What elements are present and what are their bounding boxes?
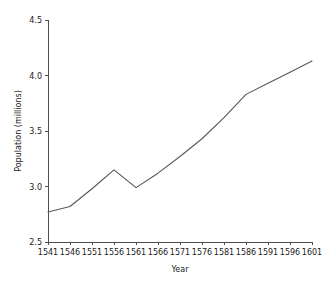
y-axis-title: Population (millions) [14,90,23,172]
y-tick-label: 3.0 [29,183,42,192]
x-tick-label: 1566 [148,248,168,257]
y-tick-label: 4.0 [29,72,42,81]
line-chart: 2.53.03.54.04.5 154115461551155615611566… [0,0,331,281]
x-tick-label: 1591 [258,248,278,257]
x-tick-label: 1571 [170,248,190,257]
y-tick-label: 2.5 [29,238,42,247]
y-axis-tick-labels: 2.53.03.54.04.5 [29,16,42,247]
x-tick-label: 1576 [192,248,212,257]
x-tick-label: 1546 [60,248,80,257]
x-tick-label: 1581 [214,248,234,257]
x-axis-tick-labels: 1541154615511556156115661571157615811586… [38,248,322,257]
y-tick-label: 4.5 [29,16,42,25]
population-line-series [48,61,312,212]
x-axis-title: Year [171,265,190,274]
x-tick-label: 1561 [126,248,146,257]
x-tick-label: 1596 [280,248,300,257]
x-tick-label: 1541 [38,248,58,257]
x-tick-label: 1551 [82,248,102,257]
x-tick-label: 1556 [104,248,124,257]
x-tick-label: 1586 [236,248,256,257]
chart-plot-area: 2.53.03.54.04.5 154115461551155615611566… [0,0,331,281]
x-tick-label: 1601 [302,248,322,257]
y-tick-label: 3.5 [29,127,42,136]
